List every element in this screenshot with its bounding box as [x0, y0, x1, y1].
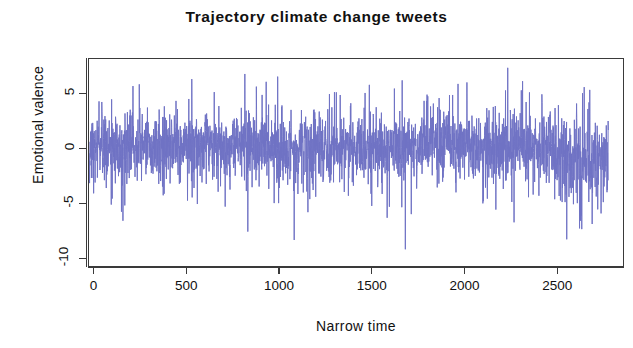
x-tick-label: 2000	[449, 278, 479, 293]
x-tick-mark	[278, 267, 279, 274]
chart-figure: Trajectory climate change tweets 0500100…	[0, 0, 633, 348]
x-tick-label: 0	[90, 278, 98, 293]
x-tick-label: 2500	[542, 278, 572, 293]
plot-area	[88, 58, 624, 267]
x-axis-label: Narrow time	[88, 318, 624, 334]
x-tick-label: 1000	[264, 278, 294, 293]
x-tick-mark	[557, 267, 558, 274]
valence-series-plot	[89, 59, 624, 267]
x-axis-line	[88, 267, 624, 268]
y-tick-label: -10	[0, 249, 74, 264]
x-tick-mark	[464, 267, 465, 274]
y-tick-mark	[79, 148, 86, 149]
y-axis-line	[86, 58, 87, 267]
x-tick-mark	[371, 267, 372, 274]
x-tick-mark	[186, 267, 187, 274]
y-tick-mark	[79, 93, 86, 94]
x-tick-mark	[93, 267, 94, 274]
chart-title: Trajectory climate change tweets	[0, 8, 633, 26]
x-tick-label: 500	[175, 278, 198, 293]
y-tick-mark	[79, 203, 86, 204]
y-axis-label: Emotional valence	[30, 25, 46, 225]
x-tick-label: 1500	[357, 278, 387, 293]
y-tick-mark	[79, 258, 86, 259]
